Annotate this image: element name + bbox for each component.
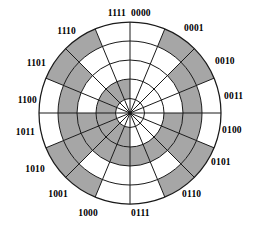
- sector-label: 1000: [0, 209, 98, 219]
- sector-label: 1001: [0, 190, 68, 200]
- sector-label: 1010: [0, 165, 45, 175]
- sector-label: 0111: [131, 209, 150, 219]
- sector-label: 1100: [0, 96, 37, 106]
- sector-label: 0110: [182, 190, 201, 200]
- sector-label: 1011: [0, 128, 35, 138]
- sector-label: 0001: [184, 24, 204, 34]
- sector-label: 1111: [0, 9, 126, 19]
- sector-label: 0100: [222, 126, 242, 136]
- gray-code-wheel-figure: 0000000100100011010001010110011110001001…: [0, 0, 260, 234]
- sector-label: 1110: [0, 27, 76, 37]
- sector-label: 0000: [131, 9, 151, 19]
- sector-label: 1101: [0, 59, 46, 69]
- sector-label: 0010: [215, 57, 235, 67]
- sector-label: 0011: [224, 92, 243, 102]
- sector-label: 0101: [211, 158, 231, 168]
